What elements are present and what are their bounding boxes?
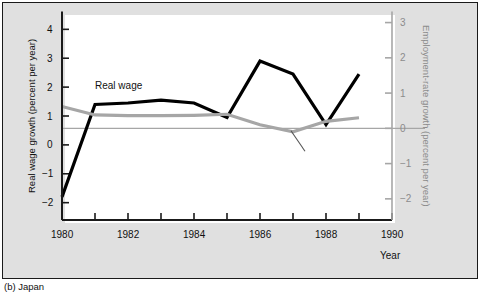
right-axis-ticks: [385, 23, 392, 199]
x-tick-label: 1988: [315, 229, 337, 240]
left-tick-label: −2: [42, 197, 53, 208]
left-tick-label: 2: [47, 82, 53, 93]
left-tick-label: 1: [47, 111, 53, 122]
x-tick-label: 1990: [381, 229, 403, 240]
right-tick-label: −1: [400, 158, 411, 169]
left-tick-label: 3: [47, 53, 53, 64]
x-tick-label: 1982: [117, 229, 139, 240]
left-tick-label: 0: [47, 139, 53, 150]
x-tick-label: 1980: [51, 229, 73, 240]
right-tick-label: 3: [400, 17, 406, 28]
right-tick-label: 0: [400, 123, 406, 134]
x-tick-label: 1984: [183, 229, 205, 240]
right-tick-label: 1: [400, 88, 406, 99]
x-axis-ticks: [62, 213, 392, 220]
right-tick-label: −2: [400, 193, 411, 204]
right-tick-label: 2: [400, 52, 406, 63]
left-tick-label: 4: [47, 24, 53, 35]
left-tick-label: −1: [42, 168, 53, 179]
annotation-group: [291, 131, 305, 151]
x-tick-label: 1986: [249, 229, 271, 240]
